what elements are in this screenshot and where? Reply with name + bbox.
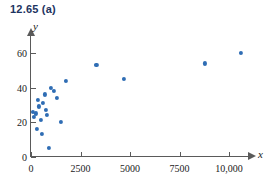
y-axis-label: y <box>33 20 38 32</box>
x-tick-label: 0 <box>29 163 34 174</box>
data-point <box>55 96 59 100</box>
data-point <box>203 61 207 65</box>
data-point <box>47 146 51 150</box>
y-tick-label: 60 <box>17 48 27 59</box>
scatter-plot-area: x y 025005000750010,000 0204060 <box>0 0 270 182</box>
x-tick-mark <box>229 152 230 157</box>
data-point <box>35 127 39 131</box>
data-point <box>44 108 48 112</box>
y-tick-mark <box>31 88 36 89</box>
data-point <box>52 89 56 93</box>
data-point <box>41 101 45 105</box>
data-point <box>43 92 47 96</box>
x-tick-mark <box>130 152 131 157</box>
data-point <box>34 111 38 115</box>
data-point <box>94 63 98 67</box>
x-axis-arrow-icon <box>248 152 256 160</box>
y-tick-mark <box>31 53 36 54</box>
data-point <box>37 104 41 108</box>
y-tick-label: 40 <box>17 82 27 93</box>
x-tick-mark <box>180 152 181 157</box>
x-tick-label: 5000 <box>120 163 140 174</box>
x-axis-label: x <box>258 148 263 160</box>
x-tick-label: 7500 <box>170 163 190 174</box>
figure-container: 12.65 (a) x y 025005000750010,000 020406… <box>0 0 270 182</box>
x-tick-label: 10,000 <box>215 163 243 174</box>
data-point <box>59 120 63 124</box>
data-point <box>39 118 43 122</box>
data-point <box>45 113 49 117</box>
y-tick-label: 20 <box>17 117 27 128</box>
x-axis-line <box>31 156 249 157</box>
y-tick-label: 0 <box>22 151 27 162</box>
data-point <box>239 51 243 55</box>
data-point <box>32 115 36 119</box>
data-point <box>40 132 44 136</box>
y-tick-mark <box>31 122 36 123</box>
y-tick-mark <box>31 157 36 158</box>
data-point <box>36 97 40 101</box>
x-tick-label: 2500 <box>71 163 91 174</box>
data-point <box>64 79 68 83</box>
x-tick-mark <box>81 152 82 157</box>
data-point <box>122 77 126 81</box>
